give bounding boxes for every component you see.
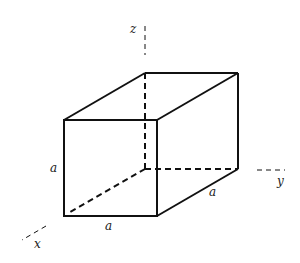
front-bottom-edge-label: a xyxy=(105,219,112,233)
x-axis-label: x xyxy=(34,237,41,251)
side-bottom-edge-label: a xyxy=(209,185,216,199)
cube-diagram: z y x a a a xyxy=(0,0,300,263)
vertical-edge-label: a xyxy=(50,161,57,175)
z-axis-label: z xyxy=(129,22,137,36)
hidden-edge-left-bottom xyxy=(70,169,145,212)
y-axis-label: y xyxy=(276,174,284,188)
